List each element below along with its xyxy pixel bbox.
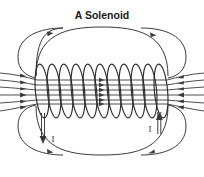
field-lines-right	[167, 73, 204, 111]
field-line-right-6	[167, 104, 204, 111]
field-arrow-top-left	[47, 32, 53, 37]
coil-turn-11	[152, 64, 170, 119]
field-arrow-top-right	[150, 32, 156, 37]
interior-field-arrow-4	[99, 93, 104, 97]
interior-field-arrow-1	[99, 78, 104, 82]
field-line-left-5	[0, 100, 37, 103]
right-lead-arrow-up	[156, 112, 163, 120]
field-line-left-2	[0, 80, 37, 85]
field-arrow-right-5	[178, 100, 184, 104]
field-arrow-right-4	[178, 93, 184, 98]
solenoid-figure: A Solenoid	[0, 0, 204, 177]
field-lines-left	[0, 73, 37, 111]
external-field-loop-outer-left	[36, 28, 63, 76]
external-field-loops	[18, 27, 186, 155]
current-label-left: I	[52, 134, 55, 144]
field-line-left-6	[0, 104, 37, 111]
page-title: A Solenoid	[75, 9, 129, 21]
interior-field-arrow-2	[99, 83, 104, 87]
interior-field-arrow-5	[99, 98, 104, 102]
field-arrow-right-3	[178, 87, 184, 90]
field-line-right-2	[167, 80, 204, 85]
field-line-left-3	[0, 87, 37, 90]
left-lead-arrow-down	[40, 136, 47, 144]
field-arrow-left-2	[20, 81, 26, 85]
field-line-right-5	[167, 100, 204, 103]
current-label-right: I	[149, 124, 152, 134]
field-arrow-left-4	[20, 93, 26, 98]
solenoid-diagram-canvas: A Solenoid	[0, 0, 204, 177]
interior-field-arrow-6	[99, 102, 104, 106]
field-lines-interior	[37, 78, 167, 106]
external-field-loop-right-lower	[168, 57, 186, 78]
field-arrow-bottom-left	[47, 149, 53, 154]
field-line-right-3	[167, 87, 204, 90]
field-arrow-left-3	[20, 87, 26, 90]
field-arrow-bottom-right	[148, 150, 155, 154]
interior-field-arrow-3	[99, 88, 104, 92]
field-arrow-left-5	[20, 100, 26, 104]
